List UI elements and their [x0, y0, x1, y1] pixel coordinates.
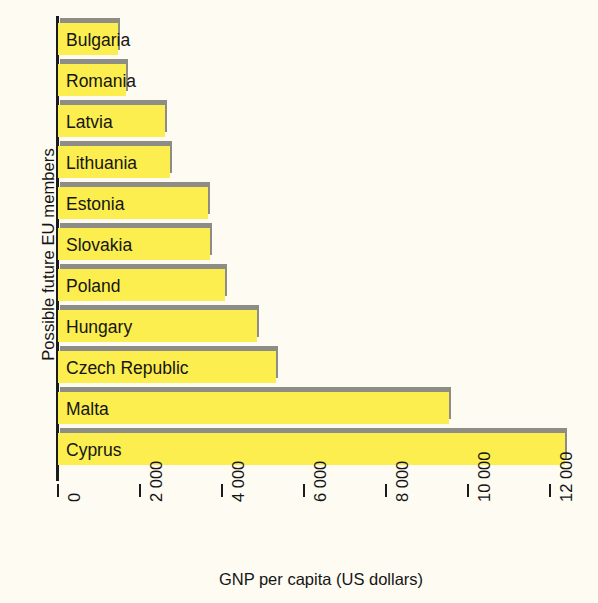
- bar-category-label: Poland: [66, 274, 121, 298]
- x-axis-tick: [303, 484, 305, 497]
- bar-category-label: Cyprus: [66, 438, 121, 462]
- x-axis-tick-label: 8 000: [393, 461, 412, 502]
- x-axis-tick: [221, 484, 223, 497]
- bar-row: Hungary: [58, 305, 265, 346]
- bar-category-label: Lithuania: [66, 151, 137, 175]
- bar-category-label: Czech Republic: [66, 356, 189, 380]
- bar-row: Bulgaria: [58, 18, 126, 59]
- bar-row: Estonia: [58, 182, 216, 223]
- x-axis-title-text: GNP per capita (US dollars): [175, 570, 423, 589]
- x-axis-tick-label: 10 000: [475, 452, 494, 502]
- x-axis-tick: [385, 484, 387, 497]
- bar-category-label: Estonia: [66, 192, 124, 216]
- x-axis-tick-label: 0: [65, 493, 84, 502]
- bar-row: Romania: [58, 59, 134, 100]
- x-axis-tick: [549, 484, 551, 497]
- bar-category-label: Malta: [66, 397, 109, 421]
- bar-row: Poland: [58, 264, 233, 305]
- bar-category-label: Slovakia: [66, 233, 132, 257]
- x-axis-tick-label: 4 000: [229, 461, 248, 502]
- bar-row: Malta: [58, 387, 457, 428]
- plot-area: BulgariaRomaniaLatviaLithuaniaEstoniaSlo…: [58, 18, 596, 480]
- bar-category-label: Romania: [66, 69, 136, 93]
- bar-category-label: Hungary: [66, 315, 132, 339]
- bar-row: Latvia: [58, 100, 173, 141]
- x-axis-tick-label: 2 000: [147, 461, 166, 502]
- x-axis-tick: [57, 484, 59, 497]
- bar-category-label: Latvia: [66, 110, 113, 134]
- x-axis-tick: [139, 484, 141, 497]
- bar-row: Lithuania: [58, 141, 178, 182]
- bar-category-label: Bulgaria: [66, 28, 130, 52]
- bar-row: Slovakia: [58, 223, 218, 264]
- bar-chart: Possible future EU members BulgariaRoman…: [0, 0, 598, 603]
- x-axis-tick-label: 6 000: [311, 461, 330, 502]
- y-axis-title: Possible future EU members: [39, 95, 58, 415]
- x-axis-tick-label: 12 000: [557, 452, 576, 502]
- bar: [58, 392, 449, 424]
- x-axis-title: GNP per capita (US dollars): [0, 570, 598, 589]
- x-axis-tick: [467, 484, 469, 497]
- bar-row: Czech Republic: [58, 346, 284, 387]
